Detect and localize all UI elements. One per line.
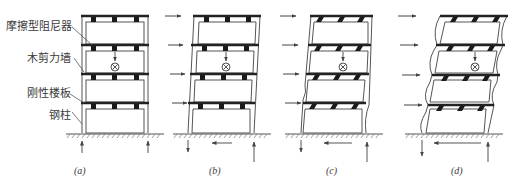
label-friction-damper: 摩擦型阻尼器 <box>6 21 72 33</box>
lateral-load-arrows-c <box>280 16 301 103</box>
caption-c: (c) <box>326 165 337 176</box>
panel-b <box>173 16 271 162</box>
caption-b: (b) <box>209 165 221 176</box>
structural-diagram: 摩擦型阻尼器 木剪力墙 刚性楼板 钢柱 (a) (b) (c) (d) <box>0 0 527 187</box>
lateral-load-arrows-b <box>165 16 187 103</box>
caption-d: (d) <box>451 165 463 176</box>
diagram-canvas <box>0 0 527 187</box>
caption-a: (a) <box>74 165 86 176</box>
panel-d <box>405 16 508 162</box>
label-wood-shear-wall: 木剪力墙 <box>27 53 71 65</box>
label-rigid-floor: 刚性楼板 <box>27 88 71 100</box>
label-steel-column: 钢柱 <box>49 110 71 122</box>
panel-a <box>66 16 164 153</box>
lateral-load-arrows-d <box>398 16 422 105</box>
panel-c <box>285 16 383 162</box>
